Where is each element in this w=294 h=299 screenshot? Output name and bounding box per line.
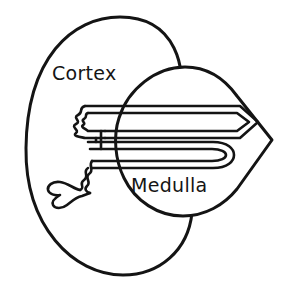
kidney-diagram: Cortex Medulla	[0, 0, 294, 299]
cortex-label: Cortex	[52, 62, 117, 84]
medulla-label: Medulla	[131, 174, 208, 196]
kidney-diagram-svg: Cortex Medulla	[0, 0, 294, 299]
